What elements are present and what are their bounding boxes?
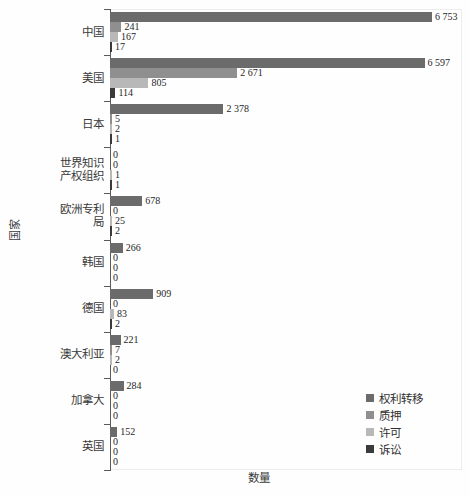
bar [110,68,237,78]
bar-row: 83 [110,309,462,319]
legend-swatch-icon [366,411,374,419]
legend-swatch-icon [366,445,374,453]
bar [110,22,121,32]
bar-row: 241 [110,22,462,32]
bar-row: 6 753 [110,12,462,22]
bar [110,170,112,180]
category-label: 韩国 [82,256,104,269]
bar-row: 1 [110,170,462,180]
bar-row: 266 [110,243,462,253]
bar-group: 中国6 75324116717 [110,12,462,52]
bar [110,88,115,98]
category-label: 欧洲专利局 [60,203,104,229]
legend-label: 许可 [379,424,401,440]
y-axis-tick [104,147,111,148]
bar-row: 5 [110,114,462,124]
bar-row: 114 [110,88,462,98]
category-label: 加拿大 [71,394,104,407]
bar [110,42,112,52]
y-axis-tick [104,101,111,102]
bar-group: 欧洲专利局6780252 [110,196,462,236]
bar-value-label: 6 597 [428,58,451,68]
bar-group: 德国9090832 [110,289,462,329]
bar [110,124,112,134]
bar-row: 167 [110,32,462,42]
bar [110,226,112,236]
category-label: 英国 [82,440,104,453]
bar [110,180,112,190]
y-axis-title: 国家 [6,207,22,253]
bar-row: 221 [110,335,462,345]
bar-value-label: 1 [115,180,120,190]
bar-value-label: 2 [115,226,120,236]
y-axis-tick [104,470,111,471]
bar-value-label: 2 378 [226,104,249,114]
bar-value-label: 17 [115,42,125,52]
bar-value-label: 0 [113,273,118,283]
bar-group: 韩国266000 [110,243,462,283]
bar-value-label: 221 [124,335,139,345]
y-axis-tick [104,193,111,194]
bar-row: 678 [110,196,462,206]
bar-row: 0 [110,160,462,170]
bar-row: 0 [110,253,462,263]
bar-group: 日本2 378521 [110,104,462,144]
bar [110,319,112,329]
bar-row: 2 [110,355,462,365]
bar-row: 2 [110,124,462,134]
bar-row: 17 [110,42,462,52]
bar-value-label: 266 [126,243,141,253]
y-axis-tick [104,9,111,10]
legend-label: 权利转移 [379,390,423,406]
y-axis-tick [104,378,111,379]
category-label: 世界知识产权组织 [60,157,104,183]
bar [110,104,223,114]
legend-item[interactable]: 权利转移 [366,389,423,406]
bar-value-label: 6 753 [435,12,458,22]
bar-row: 2 378 [110,104,462,114]
bar-row: 805 [110,78,462,88]
bar-row: 0 [110,263,462,273]
bar-row: 0 [110,150,462,160]
category-label: 澳大利亚 [60,348,104,361]
bar-row: 1 [110,180,462,190]
bar [110,355,112,365]
bar-value-label: 284 [127,381,142,391]
y-axis-tick [104,332,111,333]
bar-value-label: 1 [115,134,120,144]
bar [110,58,425,68]
bar-value-label: 0 [113,411,118,421]
bar [110,309,114,319]
bar-value-label: 114 [118,88,133,98]
bar [110,216,112,226]
bar-value-label: 678 [145,196,160,206]
bar-row: 7 [110,345,462,355]
bar-value-label: 2 671 [240,68,263,78]
x-axis-title: 数量 [0,469,470,485]
category-label: 日本 [82,118,104,131]
legend-item[interactable]: 质押 [366,406,423,423]
bar-row: 0 [110,365,462,375]
bar [110,12,432,22]
category-label: 德国 [82,302,104,315]
bar [110,134,112,144]
category-label: 中国 [82,26,104,39]
legend: 权利转移质押许可诉讼 [366,389,423,457]
bar [110,345,112,355]
legend-item[interactable]: 许可 [366,423,423,440]
legend-item[interactable]: 诉讼 [366,440,423,457]
bar-row: 1 [110,134,462,144]
legend-swatch-icon [366,394,374,402]
bar-value-label: 0 [113,457,118,467]
bar-group: 美国6 5972 671805114 [110,58,462,98]
bar-value-label: 909 [156,289,171,299]
bar-row: 909 [110,289,462,299]
bar-row: 25 [110,216,462,226]
legend-label: 质押 [379,407,401,423]
bar-value-label: 805 [151,78,166,88]
bar-value-label: 152 [120,427,135,437]
bar-value-label: 0 [113,365,118,375]
bar-row: 2 [110,226,462,236]
legend-label: 诉讼 [379,441,401,457]
bar-chart: 国家 数量 中国6 75324116717美国6 5972 671805114日… [0,0,470,497]
